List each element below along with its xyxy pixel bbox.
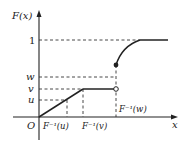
inverse-cdf-diagram: F(x) x O 1 w v u F⁻¹(u) F⁻¹(v) F⁻¹(w): [0, 0, 191, 148]
tick-label-1: 1: [29, 35, 35, 46]
tick-label-u: u: [28, 94, 34, 105]
tick-label-w: w: [26, 71, 35, 82]
x-axis-label: x: [172, 119, 178, 130]
tick-label-v: v: [28, 83, 34, 94]
closed-point-icon: [114, 63, 119, 68]
origin-label: O: [27, 120, 35, 131]
y-axis-label: F(x): [11, 10, 32, 21]
tick-label-finv-w: F⁻¹(w): [118, 104, 147, 114]
linear-segment: [39, 89, 83, 117]
y-axis-arrow-icon: [37, 10, 42, 17]
open-point-icon: [114, 87, 119, 92]
tick-label-finv-u: F⁻¹(u): [42, 121, 69, 131]
concave-segment: [116, 40, 140, 65]
tick-label-finv-v: F⁻¹(v): [81, 121, 107, 131]
cdf-curve: [39, 40, 168, 117]
